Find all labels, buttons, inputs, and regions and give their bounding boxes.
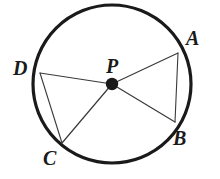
chord-AB [175,53,178,122]
vertex-label-b: B [173,128,186,148]
vertex-label-c: C [43,148,56,168]
radius-PC [62,84,112,143]
geometry-figure: P A B C D [0,0,220,179]
radius-PD [40,73,112,84]
vertex-label-d: D [13,58,27,78]
vertex-label-p: P [106,56,118,76]
radius-PB [112,84,175,122]
radius-PA [112,53,178,84]
vertex-label-a: A [186,28,199,48]
center-point-dot [106,78,118,90]
